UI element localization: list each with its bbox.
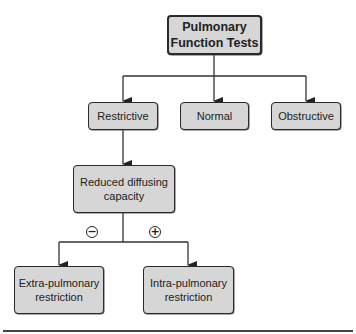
bottom-divider xyxy=(3,330,353,332)
sign-label: − xyxy=(87,227,96,237)
node-intra-pulmonary-restriction: Intra-pulmonary restriction xyxy=(143,266,234,314)
node-reduced-diffusing-capacity: Reduced diffusing capacity xyxy=(73,165,175,213)
node-label: Restrictive xyxy=(97,109,148,123)
node-label: Obstructive xyxy=(278,109,334,123)
node-obstructive: Obstructive xyxy=(271,102,341,130)
node-restrictive: Restrictive xyxy=(88,102,158,130)
node-label: Reduced diffusing capacity xyxy=(80,175,168,203)
node-normal: Normal xyxy=(180,102,249,130)
node-label: Normal xyxy=(197,109,232,123)
node-label: Pulmonary Function Tests xyxy=(171,19,259,51)
minus-circle-icon: − xyxy=(86,226,98,238)
plus-circle-icon: + xyxy=(149,226,161,238)
node-extra-pulmonary-restriction: Extra-pulmonary restriction xyxy=(14,266,104,314)
sign-label: + xyxy=(150,227,159,237)
node-label: Extra-pulmonary restriction xyxy=(19,276,100,304)
node-label: Intra-pulmonary restriction xyxy=(150,276,227,304)
node-pulmonary-function-tests: Pulmonary Function Tests xyxy=(167,15,262,55)
